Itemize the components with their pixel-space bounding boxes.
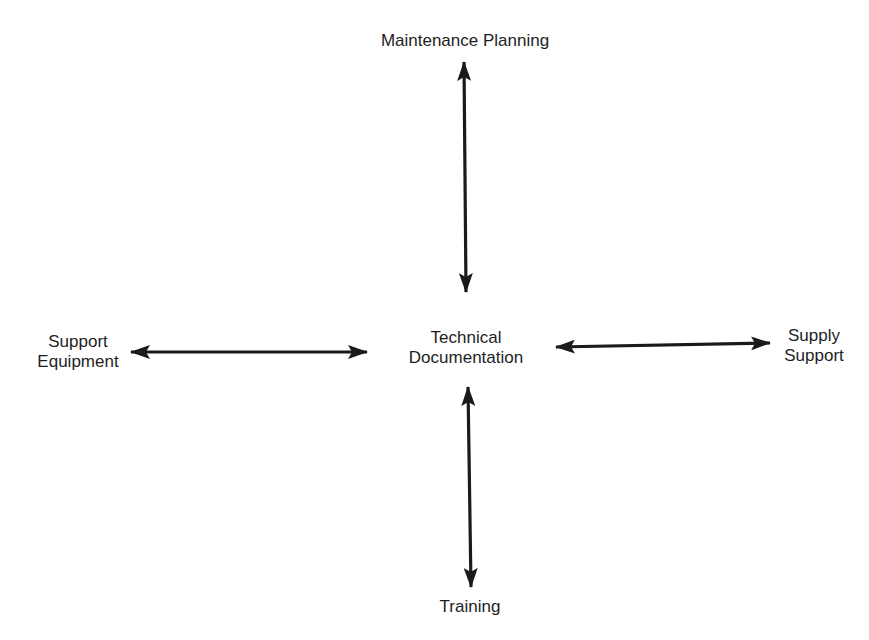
node-support-equipment: Support Equipment: [18, 332, 138, 372]
node-label-line: Support: [766, 346, 862, 366]
node-maintenance-planning: Maintenance Planning: [355, 31, 575, 51]
arrow-supply-support: [556, 343, 770, 347]
arrow-maintenance-planning: [464, 62, 466, 292]
node-label-line: Technical: [376, 328, 556, 348]
node-supply-support: Supply Support: [766, 326, 862, 366]
node-label-line: Maintenance Planning: [355, 31, 575, 51]
node-label-line: Equipment: [18, 352, 138, 372]
node-label-line: Supply: [766, 326, 862, 346]
arrow-training: [468, 387, 471, 587]
connector-arrows: [0, 0, 869, 640]
node-label-line: Documentation: [376, 348, 556, 368]
node-training: Training: [420, 597, 520, 617]
node-technical-documentation: Technical Documentation: [376, 328, 556, 368]
diagram-canvas: Maintenance Planning Technical Documenta…: [0, 0, 869, 640]
node-label-line: Support: [18, 332, 138, 352]
node-label-line: Training: [420, 597, 520, 617]
